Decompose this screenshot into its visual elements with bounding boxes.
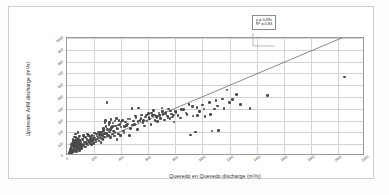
data-point [143,125,146,128]
data-point [186,113,189,116]
data-point [163,119,166,122]
data-point [249,107,252,110]
data-point [113,135,116,138]
x-tick-label: 400 [118,155,125,162]
data-point [213,108,216,111]
data-point [136,128,139,131]
data-point [129,127,132,130]
data-point [196,106,199,109]
data-point [217,129,220,132]
data-point [142,119,145,122]
x-tick-label: 600 [145,155,152,162]
data-point [156,120,159,123]
data-point [198,110,201,113]
x-tick-label: 1600 [280,155,289,163]
y-tick-label: 700 [57,71,64,78]
data-point [169,110,172,113]
data-point [343,76,346,79]
data-point [116,138,119,141]
x-axis-title: Quevedo en Quevedo discharge (m³/s) [66,173,364,179]
data-point [204,115,207,118]
data-point [106,101,109,104]
y-tick-label: 800 [57,59,64,66]
data-point [84,146,87,149]
data-point [119,134,122,137]
data-point [108,121,111,124]
data-point [109,128,112,131]
y-tick-label: 400 [57,106,64,113]
x-tick-label: 1400 [252,155,261,163]
data-point [266,94,269,97]
data-point [172,114,175,117]
y-tick-label: 600 [57,83,64,90]
data-point [131,124,134,127]
y-axis-title: Upstream AdM discharge (m³/s) [25,44,31,154]
data-point [188,103,191,106]
data-point [102,127,105,130]
data-point [140,114,143,117]
data-point [100,141,103,144]
data-point [179,117,182,120]
data-point [211,130,214,133]
data-point [192,115,195,118]
data-point [221,98,224,101]
y-tick-label: 500 [57,94,64,101]
data-point [167,116,170,119]
data-point [129,118,132,121]
data-point [159,117,162,120]
y-tick-label: 100 [57,142,64,149]
data-point [194,131,197,134]
data-point [216,105,219,108]
data-point [203,108,206,111]
data-point [123,132,126,135]
trendline-equation-box: y = 0.49x R² = 0.83 [252,15,276,30]
r-squared-text: R² = 0.83 [256,22,272,27]
data-point [126,123,129,126]
data-point [131,107,134,110]
y-tick-label: 0 [60,153,64,157]
data-point [111,125,114,128]
data-point [70,151,73,154]
data-point [113,131,116,134]
x-tick-label: 2000 [334,155,343,163]
data-point [120,121,123,124]
data-point [209,113,212,116]
data-point [114,120,117,123]
data-point [109,136,112,139]
data-point [239,103,242,106]
data-point [226,89,229,92]
x-tick-label: 2200 [361,155,370,163]
y-tick-label: 300 [57,118,64,125]
x-tick-label: 800 [172,155,179,162]
x-tick-label: 0 [65,156,69,160]
data-point [191,105,194,108]
data-point [110,118,113,121]
data-point [87,144,90,147]
scatter-plot-area [66,37,364,155]
x-tick-label: 1200 [225,155,234,163]
data-point [101,137,104,140]
data-point [201,104,204,107]
data-point [123,125,126,128]
data-point [223,107,226,110]
data-point [128,134,131,137]
data-point [215,99,218,102]
y-tick-label: 1000 [55,35,64,43]
x-tick-label: 200 [91,155,98,162]
data-point [104,119,107,122]
data-point [77,131,80,134]
data-point [80,147,83,150]
x-tick-label: 1000 [198,155,207,163]
data-point [173,121,176,124]
y-tick-label: 200 [57,130,64,137]
y-tick-label: 900 [57,47,64,54]
data-point [120,126,123,129]
data-point [116,127,119,130]
data-point [164,112,167,115]
data-point [180,108,183,111]
data-point [189,134,192,137]
data-point [76,147,79,150]
screenshot-root: 0200400600800100012001400160018002000220… [0,0,389,195]
data-point [208,101,211,104]
data-point [158,114,161,117]
